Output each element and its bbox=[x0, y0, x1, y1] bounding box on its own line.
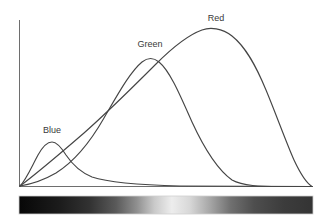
visible-spectrum-strip bbox=[19, 196, 313, 214]
curve-label-red: Red bbox=[208, 13, 225, 23]
curve-label-green: Green bbox=[137, 39, 162, 49]
curve-label-blue: Blue bbox=[43, 125, 61, 135]
spectral-sensitivity-figure: Blue Green Red bbox=[0, 0, 333, 220]
